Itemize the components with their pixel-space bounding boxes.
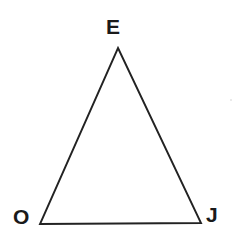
- vertex-label-o: O: [13, 206, 29, 227]
- vertex-label-e: E: [106, 16, 120, 37]
- triangle-outline: [40, 48, 201, 224]
- scan-artifact-speck: [230, 99, 232, 101]
- vertex-label-j: J: [206, 204, 218, 225]
- triangle-diagram-figure: E O J: [0, 0, 244, 245]
